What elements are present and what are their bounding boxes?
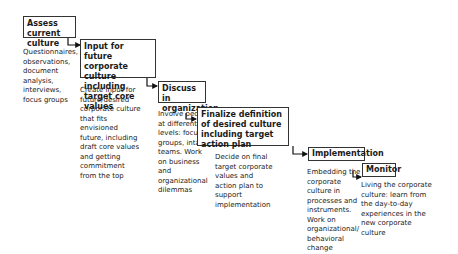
step-implementation-description: Embedding the corporate culture in proce… (307, 168, 365, 254)
step-title: Implementation (312, 149, 384, 158)
step-title: Monitor (366, 165, 401, 174)
step-monitor-description: Living the corporate culture: learn from… (361, 181, 433, 238)
step-title: Finalize definition of desired culture i… (201, 110, 282, 149)
step-assess-description: Questionnaires, observations, document a… (23, 48, 75, 105)
step-discuss-box: Discuss in organization (158, 81, 206, 103)
step-monitor-box: Monitor (362, 163, 396, 177)
step-input-box: Input for future corporate culture inclu… (80, 39, 156, 78)
step-input-description: Create input for future/desired corporat… (80, 86, 142, 181)
step-finalize-description: Decide on final target corporate values … (215, 153, 273, 210)
step-finalize-box: Finalize definition of desired culture i… (197, 107, 289, 146)
step-title: Assess current culture (27, 19, 60, 48)
step-implementation-box: Implementation (308, 147, 365, 161)
step-assess-box: Assess current culture (23, 16, 76, 38)
